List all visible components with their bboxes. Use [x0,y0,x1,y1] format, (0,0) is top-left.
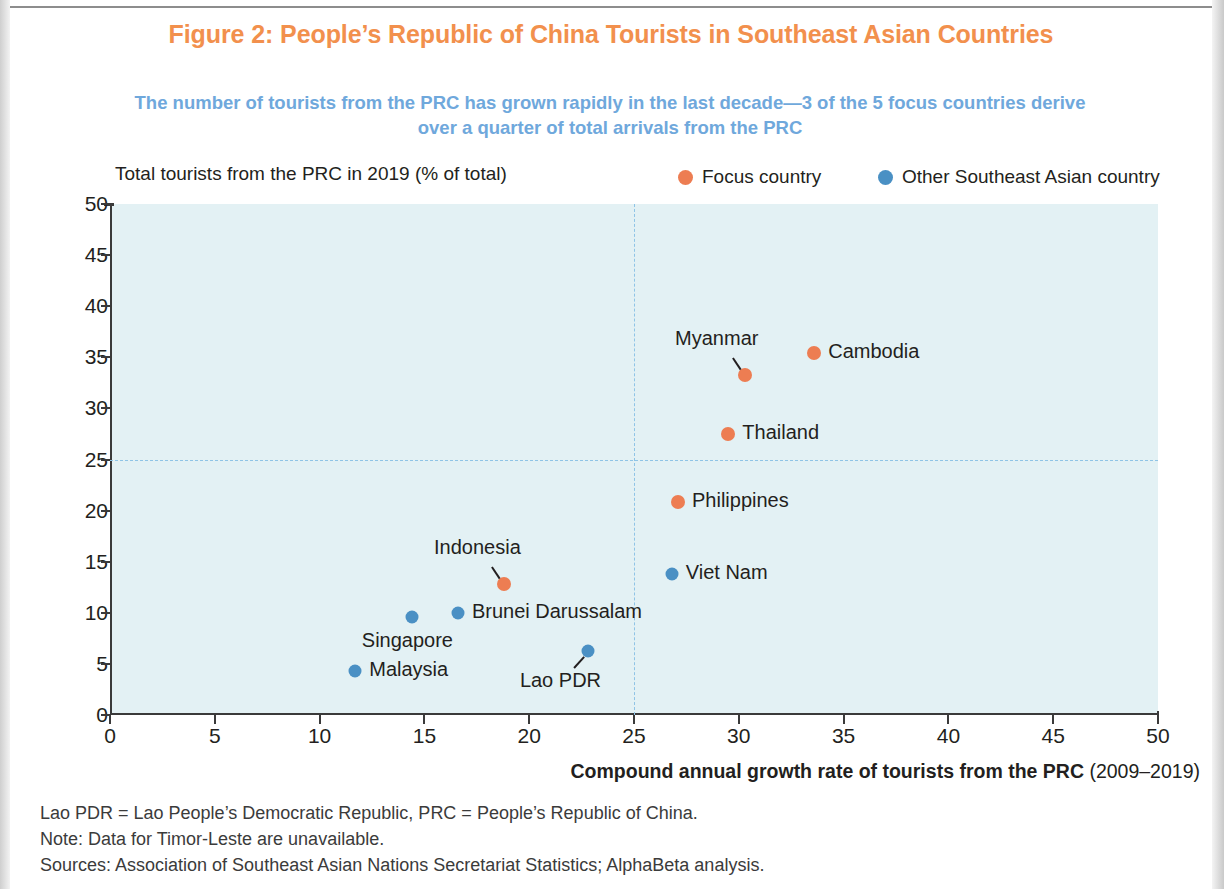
page-edge-left [0,0,10,889]
data-point-viet-nam[interactable] [665,567,678,580]
y-tick-label: 5 [52,652,108,676]
x-tick-label: 50 [1146,724,1169,748]
y-tick-mark [101,663,110,665]
y-tick-mark [101,356,110,358]
x-tick-label: 40 [937,724,960,748]
x-tick-mark [947,715,949,724]
x-tick-mark [319,715,321,724]
data-label-brunei-darussalam: Brunei Darussalam [472,600,642,623]
reference-line-x-25 [634,204,635,715]
legend-item-focus-country: Focus country [678,166,821,188]
y-tick-label: 50 [52,192,108,216]
x-axis-title-main: Compound annual growth rate of tourists … [570,760,1084,782]
x-tick-label: 0 [104,724,116,748]
note-abbreviations: Lao PDR = Lao People’s Democratic Republ… [40,800,1160,826]
y-tick-mark [101,612,110,614]
y-tick-label: 10 [52,601,108,625]
y-tick-label: 25 [52,448,108,472]
y-tick-label: 40 [52,294,108,318]
x-tick-mark [214,715,216,724]
x-tick-mark [423,715,425,724]
data-label-cambodia: Cambodia [828,340,919,363]
data-label-viet-nam: Viet Nam [686,561,768,584]
figure-container: Figure 2: People’s Republic of China Tou… [10,0,1212,889]
y-tick-label: 45 [52,243,108,267]
x-tick-mark [633,715,635,724]
note-data: Note: Data for Timor-Leste are unavailab… [40,826,1160,852]
y-tick-mark [101,407,110,409]
data-point-brunei-darussalam[interactable] [451,606,464,619]
legend-label-focus: Focus country [702,166,821,188]
data-point-cambodia[interactable] [807,346,821,360]
y-tick-mark [101,305,110,307]
y-tick-mark [101,510,110,512]
plot-wrapper: 0510152025303540455005101520253035404550… [110,204,1158,715]
x-tick-label: 30 [727,724,750,748]
data-label-philippines: Philippines [692,489,789,512]
data-label-myanmar: Myanmar [675,327,758,350]
figure-notes: Lao PDR = Lao People’s Democratic Republ… [40,800,1160,878]
x-axis-title: Compound annual growth rate of tourists … [10,760,1200,783]
data-label-indonesia: Indonesia [434,536,521,559]
legend-marker-other-icon [878,170,893,185]
figure-subtitle: The number of tourists from the PRC has … [130,90,1090,140]
x-tick-mark [1052,715,1054,724]
x-tick-label: 15 [413,724,436,748]
y-tick-mark [101,254,110,256]
x-tick-mark [528,715,530,724]
page-edge-right [1212,0,1224,889]
x-tick-label: 35 [832,724,855,748]
y-tick-label: 20 [52,499,108,523]
chart-legend: Focus country Other Southeast Asian coun… [678,166,1198,192]
legend-marker-focus-icon [678,170,693,185]
data-label-singapore: Singapore [362,629,453,652]
x-tick-label: 10 [308,724,331,748]
figure-title: Figure 2: People’s Republic of China Tou… [10,20,1212,49]
y-axis-title: Total tourists from the PRC in 2019 (% o… [115,163,507,185]
data-point-philippines[interactable] [671,495,685,509]
y-tick-label: 15 [52,550,108,574]
legend-label-other: Other Southeast Asian country [902,166,1160,188]
data-point-lao-pdr[interactable] [581,644,594,657]
data-point-singapore[interactable] [405,610,418,623]
x-tick-mark [738,715,740,724]
x-tick-label: 5 [209,724,221,748]
data-label-malaysia: Malaysia [369,658,448,681]
x-tick-mark [109,715,111,724]
x-tick-label: 45 [1042,724,1065,748]
x-tick-label: 25 [622,724,645,748]
y-tick-label: 35 [52,345,108,369]
y-tick-label: 30 [52,396,108,420]
x-tick-mark [1157,715,1159,724]
x-tick-mark [843,715,845,724]
note-sources: Sources: Association of Southeast Asian … [40,852,1160,878]
y-tick-mark [101,561,110,563]
data-label-thailand: Thailand [742,421,819,444]
y-tick-mark [101,459,110,461]
data-point-thailand[interactable] [721,427,735,441]
x-tick-label: 20 [518,724,541,748]
y-tick-label: 0 [52,703,108,727]
data-label-lao-pdr: Lao PDR [520,669,601,692]
x-axis-title-period: (2009–2019) [1089,760,1200,782]
legend-item-other-country: Other Southeast Asian country [878,166,1160,188]
y-tick-mark [101,203,110,205]
data-point-malaysia[interactable] [349,665,362,678]
